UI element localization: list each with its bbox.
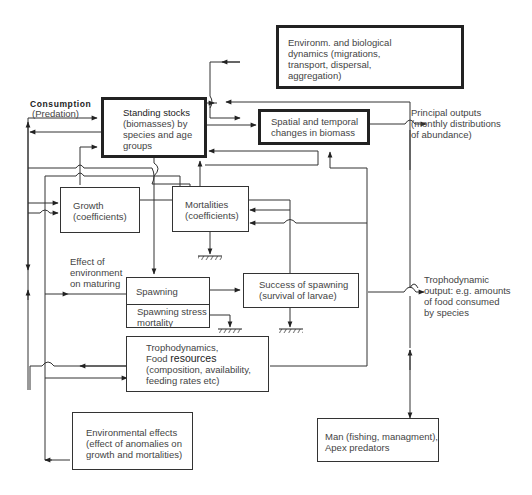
environ-dynamics-line2: dynamics (migrations, <box>288 48 380 59</box>
effect-env-line2: environment <box>70 267 122 278</box>
environ-dynamics-line4: aggregation) <box>288 70 341 81</box>
principal-outputs-line3: of abundance) <box>411 129 472 140</box>
environ-dynamics-line3: transport, dispersal, <box>288 59 371 70</box>
growth-line2: (coefficients) <box>73 211 127 222</box>
standing-stocks-line3: species and age <box>123 129 192 140</box>
spatial-temporal-line2: changes in biomass <box>271 127 355 138</box>
effect-env-line3: on maturing <box>70 278 120 289</box>
tropho-line2-prefix: Food <box>146 353 170 364</box>
principal-outputs-line2: (monthly distributions <box>411 118 501 129</box>
success-spawning-line1: Success of spawning <box>259 279 348 290</box>
predation-label: (Predation) <box>32 108 79 119</box>
man-predators-line2: Apex predators <box>325 442 389 453</box>
tropho-line4: feeding rates etc) <box>146 375 219 386</box>
env-effects-line1: Environmental effects <box>86 427 177 438</box>
tropho-output-line2: output: e.g. amounts <box>424 285 511 296</box>
tropho-output-line3: of food consumed <box>424 296 500 307</box>
spawning-stress-line1: Spawning stress <box>137 306 207 317</box>
spawning-stress-line2: mortality <box>137 317 173 328</box>
mortalities-line1: Mortalities <box>185 199 228 210</box>
principal-outputs-line1: Principal outputs <box>411 107 481 118</box>
tropho-output-line1: Trophodynamic <box>424 274 489 285</box>
env-effects-line2: (effect of anomalies on <box>86 438 182 449</box>
man-predators-line1: Man (fishing, managment), <box>325 431 438 442</box>
standing-stocks-line1: Standing stocks <box>123 107 190 118</box>
standing-stocks-line4: groups <box>123 140 152 151</box>
effect-env-line1: Effect of <box>70 256 105 267</box>
standing-stocks-line2: (biomasses) by <box>123 118 187 129</box>
environ-dynamics-line1: Environm. and biological <box>288 37 392 48</box>
success-spawning-line2: (survival of larvae) <box>259 290 337 301</box>
mortalities-line2: (coefficients) <box>185 210 239 221</box>
growth-line1: Growth <box>73 200 104 211</box>
tropho-output-line4: by species <box>424 307 469 318</box>
env-effects-line3: growth and mortalities) <box>86 449 182 460</box>
tropho-line2: Food resources <box>146 353 216 364</box>
spawning-label: Spawning <box>136 286 178 297</box>
spatial-temporal-line1: Spatial and temporal <box>271 116 358 127</box>
tropho-line3: (composition, availability, <box>146 364 251 375</box>
tropho-line2-bold: resources <box>170 352 216 364</box>
flow-diagram: Standing stocks (biomasses) by species a… <box>0 0 532 495</box>
